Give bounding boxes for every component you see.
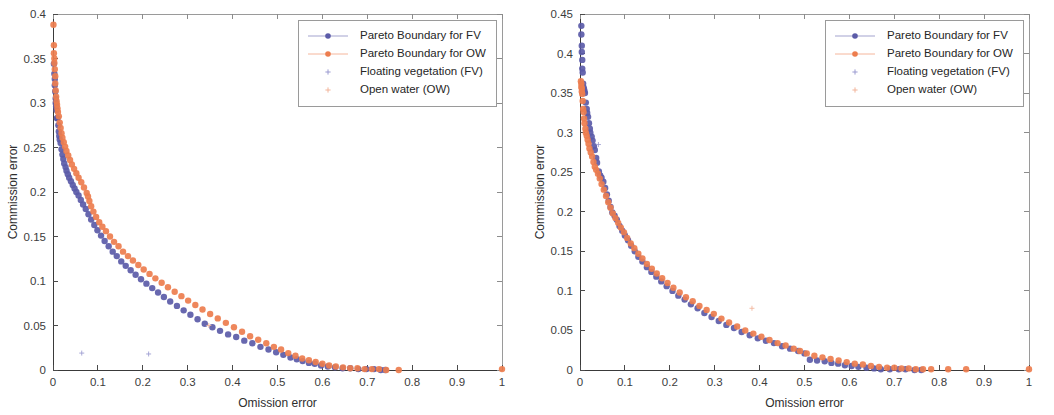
scatter-marker-plus xyxy=(146,351,151,356)
scatter-marker-dot xyxy=(579,98,585,104)
scatter-marker-dot xyxy=(180,307,186,313)
y-tick-label: 0.35 xyxy=(24,53,46,65)
scatter-marker-dot xyxy=(581,120,587,126)
scatter-marker-dot xyxy=(165,284,171,290)
scatter-marker-dot xyxy=(257,344,263,350)
y-axis-title: Commission error xyxy=(6,145,20,240)
scatter-marker-dot xyxy=(1026,366,1032,372)
scatter-marker-dot xyxy=(898,365,904,371)
scatter-marker-dot xyxy=(285,350,291,356)
scatter-marker-dot xyxy=(791,345,797,351)
x-tick-label: 0.2 xyxy=(135,376,151,388)
scatter-marker-dot xyxy=(107,233,113,239)
scatter-marker-dot xyxy=(844,359,850,365)
x-axis-title: Omission error xyxy=(238,396,317,410)
chart-panel-right: 00.10.20.30.40.50.60.70.80.9100.050.10.1… xyxy=(527,0,1054,415)
x-tick-label: 0.5 xyxy=(797,376,813,388)
scatter-marker-dot xyxy=(241,337,247,343)
legend: Pareto Boundary for FVPareto Boundary fo… xyxy=(298,20,496,106)
scatter-marker-dot xyxy=(278,346,284,352)
scatter-marker-dot xyxy=(383,367,389,373)
scatter-marker-dot xyxy=(868,363,874,369)
y-tick-label: 0.15 xyxy=(24,231,46,243)
scatter-marker-dot xyxy=(835,357,841,363)
y-tick-label: 0.05 xyxy=(551,324,573,336)
x-tick-label: 0.2 xyxy=(662,376,678,388)
scatter-marker-dot xyxy=(579,49,585,55)
scatter-marker-dot xyxy=(123,263,129,269)
scatter-marker-dot xyxy=(726,319,732,325)
scatter-marker-dot xyxy=(120,248,126,254)
scatter-marker-dot xyxy=(605,199,611,205)
x-tick-label: 0.4 xyxy=(752,376,769,388)
scatter-marker-dot xyxy=(734,323,740,329)
scatter-marker-dot xyxy=(306,357,312,363)
y-tick-label: 0.1 xyxy=(557,285,573,297)
legend-entry-label: Floating vegetation (FV) xyxy=(360,65,483,77)
scatter-marker-dot xyxy=(271,344,277,350)
scatter-marker-dot xyxy=(199,306,205,312)
x-tick-label: 0.6 xyxy=(314,376,330,388)
y-tick-label: 0.25 xyxy=(551,166,573,178)
scatter-marker-dot xyxy=(225,331,231,337)
scatter-marker-dot xyxy=(891,364,897,370)
scatter-marker-dot xyxy=(174,303,180,309)
scatter-marker-dot xyxy=(326,362,332,368)
scatter-marker-dot xyxy=(579,57,585,63)
x-tick-label: 0.1 xyxy=(90,376,106,388)
scatter-marker-dot xyxy=(105,243,111,249)
scatter-marker-dot xyxy=(52,80,58,86)
y-axis-title: Commission error xyxy=(533,145,547,240)
x-tick-label: 0.3 xyxy=(707,376,723,388)
scatter-marker-dot xyxy=(624,235,630,241)
scatter-marker-dot xyxy=(143,280,149,286)
scatter-marker-dot xyxy=(579,69,585,75)
scatter-marker-dot xyxy=(354,365,360,371)
scatter-marker-dot xyxy=(51,60,57,66)
legend: Pareto Boundary for FVPareto Boundary fo… xyxy=(825,20,1023,106)
y-tick-label: 0.3 xyxy=(30,97,46,109)
scatter-marker-dot xyxy=(171,288,177,294)
scatter-marker-dot xyxy=(50,21,56,27)
scatter-marker-dot xyxy=(578,31,584,37)
scatter-marker-dot xyxy=(125,253,131,259)
scatter-marker-dot xyxy=(580,109,586,115)
scatter-plot-left: 00.10.20.30.40.50.60.70.80.9100.050.10.1… xyxy=(0,0,527,415)
x-tick-label: 0.6 xyxy=(841,376,857,388)
y-tick-label: 0.2 xyxy=(557,206,573,218)
scatter-marker-dot xyxy=(52,73,58,79)
scatter-marker-dot xyxy=(239,329,245,335)
scatter-marker-dot xyxy=(683,294,689,300)
scatter-marker-dot xyxy=(319,361,325,367)
scatter-marker-dot xyxy=(589,153,595,159)
scatter-marker-dot xyxy=(945,366,951,372)
scatter-marker-dot xyxy=(607,205,613,211)
scatter-marker-dot xyxy=(598,181,604,187)
scatter-marker-dot xyxy=(127,267,133,273)
scatter-marker-dot xyxy=(750,330,756,336)
scatter-marker-dot xyxy=(928,366,934,372)
scatter-marker-dot xyxy=(782,342,788,348)
legend-entry-label: Open water (OW) xyxy=(887,83,977,95)
y-tick-label: 0 xyxy=(567,364,573,376)
scatter-marker-plus xyxy=(749,306,754,311)
x-tick-label: 0.9 xyxy=(976,376,992,388)
scatter-marker-dot xyxy=(852,360,858,366)
scatter-marker-dot xyxy=(167,298,173,304)
scatter-marker-dot xyxy=(140,266,146,272)
scatter-marker-dot xyxy=(247,333,253,339)
scatter-marker-dot xyxy=(659,275,665,281)
scatter-marker-dot xyxy=(920,366,926,372)
y-tick-label: 0.3 xyxy=(557,127,573,139)
scatter-marker-dot xyxy=(135,262,141,268)
legend-marker-dot xyxy=(325,33,331,39)
scatter-marker-dot xyxy=(52,87,58,93)
scatter-marker-dot xyxy=(774,340,780,346)
scatter-marker-dot xyxy=(52,66,58,72)
scatter-marker-dot xyxy=(579,91,585,97)
scatter-marker-dot xyxy=(369,366,375,372)
y-tick-label: 0.05 xyxy=(24,320,46,332)
legend-marker-dot xyxy=(852,51,858,57)
scatter-marker-dot xyxy=(185,297,191,303)
scatter-marker-dot xyxy=(711,311,717,317)
